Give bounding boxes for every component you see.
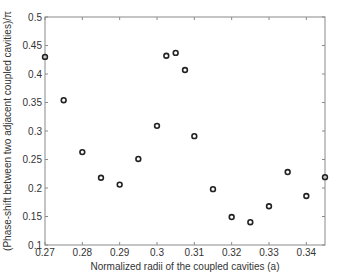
x-tick-label: 0.31 — [185, 247, 205, 258]
y-axis-label: (Phase-shift between two adjacent couple… — [2, 11, 13, 251]
x-tick-label: 0.32 — [222, 247, 242, 258]
x-tick-label: 0.33 — [259, 247, 279, 258]
x-tick-label: 0.28 — [73, 247, 93, 258]
plot-area — [45, 17, 325, 245]
x-tick-label: 0.29 — [110, 247, 130, 258]
x-axis-label: Normalized radii of the coupled cavities… — [91, 261, 280, 272]
x-tick-label: 0.34 — [297, 247, 317, 258]
scatter-chart: 0.270.280.290.30.310.320.330.34 0.10.150… — [0, 0, 338, 277]
y-tick-label: 0.1 — [28, 240, 42, 251]
y-tick-label: 0.45 — [23, 40, 43, 51]
y-tick-label: 0.35 — [23, 97, 43, 108]
y-tick-label: 0.25 — [23, 154, 43, 165]
y-tick-label: 0.5 — [28, 12, 42, 23]
y-tick-label: 0.4 — [28, 69, 42, 80]
x-tick-label: 0.3 — [150, 247, 164, 258]
y-tick-label: 0.3 — [28, 126, 42, 137]
y-tick-label: 0.2 — [28, 183, 42, 194]
y-tick-label: 0.15 — [23, 211, 43, 222]
